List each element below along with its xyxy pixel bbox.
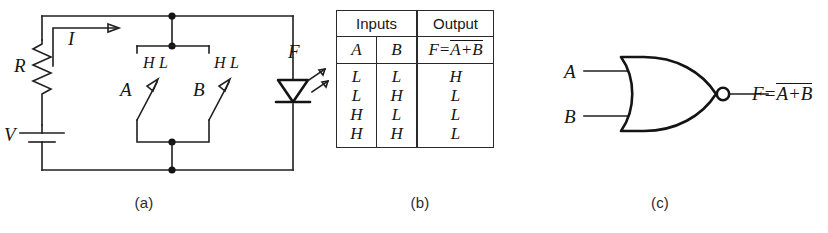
table-header-row: Inputs Output <box>337 11 494 37</box>
led-label: F <box>287 41 300 62</box>
gate-output-expr-bar: A+B <box>776 83 812 104</box>
panel-b-caption: (b) <box>320 194 520 211</box>
cell-f: L <box>417 105 493 124</box>
panel-nor-gate: A B F=A+B (c) <box>520 0 828 233</box>
output-expr-bar: A+B <box>450 40 482 59</box>
panel-a-caption: (a) <box>0 194 304 211</box>
table-row: L L H <box>337 64 494 87</box>
gate-output-expr-prefix: F= <box>752 83 776 104</box>
switch-a-high-label: H <box>142 54 156 71</box>
table-variable-row: A B F=A+B <box>337 37 494 64</box>
gate-inversion-bubble <box>717 88 729 100</box>
column-label-f: F=A+B <box>417 37 493 64</box>
table-row: H L L <box>337 105 494 124</box>
junction-dot-bottom-rail <box>168 166 175 173</box>
column-label-a: A <box>337 37 377 64</box>
cell-a: L <box>337 64 377 87</box>
panel-c-caption: (c) <box>506 194 814 211</box>
table-row: L H L <box>337 86 494 105</box>
header-inputs: Inputs <box>337 11 418 37</box>
switch-a-low-label: L <box>158 54 168 71</box>
led-triangle <box>278 80 308 102</box>
gate-output-expression: F=A+B <box>752 83 812 105</box>
source-label: V <box>4 124 18 145</box>
panel-truth-table: Inputs Output A B F=A+B L L H L H L <box>320 0 520 233</box>
gate-input-a-label: A <box>562 61 576 82</box>
figure-nor-gate-equivalents: R I V F A B H L H L (a) Inputs Output A … <box>0 0 828 233</box>
truth-table: Inputs Output A B F=A+B L L H L H L <box>336 10 494 148</box>
header-output: Output <box>417 11 493 37</box>
resistor-label: R <box>13 55 26 76</box>
circuit-schematic: R I V F A B H L H L <box>0 0 320 200</box>
cell-a: H <box>337 124 377 148</box>
switch-b-label: B <box>193 79 205 100</box>
cell-f: L <box>417 124 493 148</box>
gate-input-b-label: B <box>564 106 576 127</box>
current-label: I <box>67 28 76 49</box>
cell-b: H <box>377 86 418 105</box>
junction-dot-top-rail <box>168 12 175 19</box>
switch-b-low-label: L <box>229 54 239 71</box>
cell-f: L <box>417 86 493 105</box>
cell-b: L <box>377 64 418 87</box>
output-expr-prefix: F= <box>428 40 450 59</box>
table-row: H H L <box>337 124 494 148</box>
cell-a: H <box>337 105 377 124</box>
cell-f: H <box>417 64 493 87</box>
cell-b: H <box>377 124 418 148</box>
nor-gate-body <box>621 57 716 131</box>
cell-a: L <box>337 86 377 105</box>
switch-b-high-label: H <box>213 54 227 71</box>
cell-b: L <box>377 105 418 124</box>
switch-a-label: A <box>118 79 132 100</box>
panel-diode-switch-circuit: R I V F A B H L H L (a) <box>0 0 320 233</box>
resistor-symbol <box>33 40 51 125</box>
current-arrow-path <box>53 28 116 66</box>
column-label-b: B <box>377 37 418 64</box>
